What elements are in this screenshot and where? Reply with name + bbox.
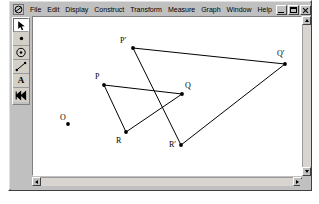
label-p-prime[interactable]: P′ xyxy=(120,37,126,45)
close-button[interactable] xyxy=(300,5,311,15)
window-controls xyxy=(275,5,311,15)
label-r-prime[interactable]: R′ xyxy=(169,141,176,149)
menu-display[interactable]: Display xyxy=(62,4,91,15)
double-arrow-icon xyxy=(15,90,27,101)
segment-r-prime-p-prime[interactable] xyxy=(133,48,181,145)
segment-q-prime-r-prime[interactable] xyxy=(181,64,285,145)
text-a-icon: A xyxy=(18,76,25,85)
segment-pq[interactable] xyxy=(104,85,182,94)
label-r[interactable]: R xyxy=(116,137,121,145)
menu-graph[interactable]: Graph xyxy=(198,4,223,15)
resize-grip[interactable] xyxy=(300,179,309,188)
menu-help[interactable]: Help xyxy=(255,4,275,15)
selection-arrow-tool[interactable] xyxy=(13,18,29,32)
window-inner-frame: File Edit Display Construct Transform Me… xyxy=(9,1,311,190)
menu-transform[interactable]: Transform xyxy=(127,4,165,15)
menu-measure[interactable]: Measure xyxy=(165,4,198,15)
sketchpad-icon[interactable] xyxy=(13,4,24,15)
circle-icon xyxy=(15,47,27,58)
point-q-prime[interactable] xyxy=(283,62,287,66)
scroll-down-button[interactable] xyxy=(302,167,311,176)
straightedge-tool[interactable] xyxy=(13,60,29,74)
minimize-button[interactable] xyxy=(276,5,287,15)
segment-p-prime-q-prime[interactable] xyxy=(133,48,285,64)
arrow-icon xyxy=(16,20,27,31)
sketch-canvas[interactable]: PQRP′Q′R′O xyxy=(32,16,302,176)
point-tool[interactable] xyxy=(13,32,29,46)
point-p-prime[interactable] xyxy=(131,46,135,50)
segment-rp[interactable] xyxy=(104,85,126,132)
text-tool[interactable]: A xyxy=(13,74,29,88)
toolbox: A xyxy=(12,17,30,105)
scrollbar-corner xyxy=(12,177,31,186)
label-p[interactable]: P xyxy=(95,73,99,81)
segment-icon xyxy=(15,61,27,72)
label-o[interactable]: O xyxy=(60,114,66,122)
point-r[interactable] xyxy=(124,130,128,134)
point-group xyxy=(66,46,287,147)
sketch-geometry xyxy=(33,17,301,175)
menu-window[interactable]: Window xyxy=(224,4,255,15)
document-client-area: A PQRP′Q′R′O xyxy=(11,16,311,190)
vertical-scrollbar[interactable] xyxy=(302,16,311,176)
application-window: File Edit Display Construct Transform Me… xyxy=(8,0,312,191)
menu-construct[interactable]: Construct xyxy=(91,4,127,15)
point-q[interactable] xyxy=(180,92,184,96)
vertical-scroll-track[interactable] xyxy=(302,25,311,167)
restore-button[interactable] xyxy=(288,5,299,15)
horizontal-scroll-track[interactable] xyxy=(41,177,293,186)
point-r-prime[interactable] xyxy=(179,143,183,147)
scroll-up-button[interactable] xyxy=(302,16,311,25)
segment-group xyxy=(104,48,285,145)
segment-qr[interactable] xyxy=(126,94,182,132)
sketchpad-application: File Edit Display Construct Transform Me… xyxy=(0,0,319,204)
horizontal-scrollbar[interactable] xyxy=(32,177,302,186)
label-q-prime[interactable]: Q′ xyxy=(277,50,285,58)
menu-file[interactable]: File xyxy=(27,4,44,15)
scroll-left-button[interactable] xyxy=(32,177,41,186)
menu-edit[interactable]: Edit xyxy=(44,4,62,15)
custom-tool[interactable] xyxy=(13,88,29,102)
point-p[interactable] xyxy=(102,83,106,87)
label-q[interactable]: Q xyxy=(185,82,191,90)
menu-bar: File Edit Display Construct Transform Me… xyxy=(11,3,311,16)
compass-tool[interactable] xyxy=(13,46,29,60)
point-icon xyxy=(16,33,27,44)
point-o[interactable] xyxy=(66,122,70,126)
